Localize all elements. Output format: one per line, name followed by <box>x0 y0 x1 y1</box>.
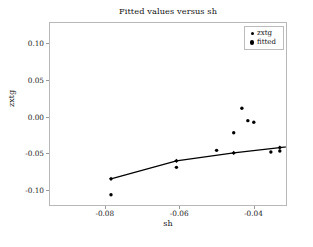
chart-title: Fitted values versus sh <box>49 6 287 16</box>
y-tick-label: 0.10 <box>8 39 44 48</box>
legend-marker-circle-large-icon <box>247 40 257 44</box>
legend-label-zxtg: zxtg <box>257 29 272 38</box>
legend-marker-circle-small-icon <box>247 32 257 35</box>
fitted-marker <box>109 177 113 181</box>
fitted-marker <box>232 151 236 155</box>
y-tick-mark <box>46 117 49 118</box>
scatter-point <box>109 193 112 196</box>
plot-canvas <box>50 23 287 206</box>
legend-item-zxtg: zxtg <box>247 29 280 38</box>
y-axis-label: zxtg <box>7 79 16 119</box>
y-tick-mark <box>46 43 49 44</box>
scatter-point <box>175 166 178 169</box>
scatter-point <box>246 119 249 122</box>
x-tick-label: -0.06 <box>170 209 189 218</box>
legend-label-fitted: fitted <box>257 38 276 47</box>
x-tick-label: -0.08 <box>95 209 114 218</box>
scatter-point <box>240 107 243 110</box>
y-tick-label: -0.10 <box>8 186 44 195</box>
y-tick-mark <box>46 153 49 154</box>
scatter-point <box>269 150 272 153</box>
x-axis-label: sh <box>49 219 287 228</box>
scatter-point <box>215 149 218 152</box>
scatter-point <box>232 131 235 134</box>
y-tick-mark <box>46 80 49 81</box>
fitted-line <box>111 70 287 179</box>
x-tick-label: -0.04 <box>244 209 263 218</box>
fitted-line-layer <box>109 68 287 181</box>
legend-item-fitted: fitted <box>247 38 280 47</box>
chart-figure: Fitted values versus sh -0.08-0.06-0.04-… <box>0 0 313 247</box>
scatter-point <box>252 121 255 124</box>
y-tick-mark <box>46 190 49 191</box>
y-tick-label: -0.05 <box>8 149 44 158</box>
fitted-marker <box>174 159 178 163</box>
scatter-point <box>278 149 281 152</box>
chart-legend: zxtg fitted <box>244 26 284 50</box>
fitted-marker <box>278 145 282 149</box>
